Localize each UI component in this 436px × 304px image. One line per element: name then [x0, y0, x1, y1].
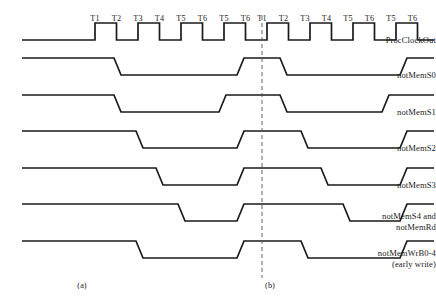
tick-label-a-6: T5	[215, 14, 233, 23]
tick-label-b-6: T5	[382, 14, 400, 23]
signal-label-notmems0: notMemS0	[350, 70, 436, 81]
tick-label-a-3: T4	[151, 14, 169, 23]
timing-diagram: ProcClockOut notMemS0 notMemS1 notMemS2 …	[0, 0, 436, 304]
tick-label-a-5: T6	[194, 14, 212, 23]
tick-label-a-0: T1	[86, 14, 104, 23]
panel-caption-b: (b)	[260, 281, 280, 290]
signal-label-procclockout: ProcClockOut	[350, 35, 436, 46]
signal-label-notmemwrb0-4: notMemWrB0-4 (early write)	[350, 248, 436, 269]
signal-label-notmems4-notmemrd: notMemS4 and notMemRd	[350, 211, 436, 232]
tick-label-b-0: T1	[253, 14, 271, 23]
tick-label-a-1: T2	[108, 14, 126, 23]
tick-label-b-1: T2	[275, 14, 293, 23]
tick-label-a-2: T3	[129, 14, 147, 23]
signal-label-notmems1: notMemS1	[350, 107, 436, 118]
signal-label-notmems2: notMemS2	[350, 143, 436, 154]
tick-label-b-7: T6	[404, 14, 422, 23]
tick-label-b-3: T4	[318, 14, 336, 23]
tick-label-a-7: T6	[237, 14, 255, 23]
tick-label-b-5: T6	[361, 14, 379, 23]
tick-label-b-2: T3	[296, 14, 314, 23]
panel-caption-a: (a)	[72, 281, 92, 290]
tick-label-a-4: T5	[172, 14, 190, 23]
signal-label-notmems3: notMemS3	[350, 180, 436, 191]
tick-label-b-4: T5	[339, 14, 357, 23]
